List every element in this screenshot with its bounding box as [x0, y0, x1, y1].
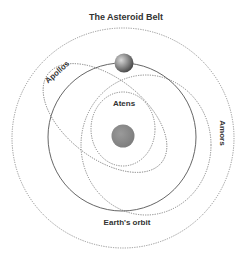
earth-icon — [115, 54, 134, 73]
asteroid-orbits-diagram: The Asteroid Belt Apollos Atens Amors Ea… — [0, 0, 247, 256]
title-asteroid-belt: The Asteroid Belt — [89, 12, 163, 22]
label-earth-orbit: Earth's orbit — [104, 218, 151, 227]
amors-orbit — [81, 75, 211, 215]
label-atens: Atens — [113, 99, 136, 108]
label-amors: Amors — [218, 120, 227, 146]
sun-icon — [112, 125, 135, 148]
label-apollos: Apollos — [43, 59, 71, 86]
